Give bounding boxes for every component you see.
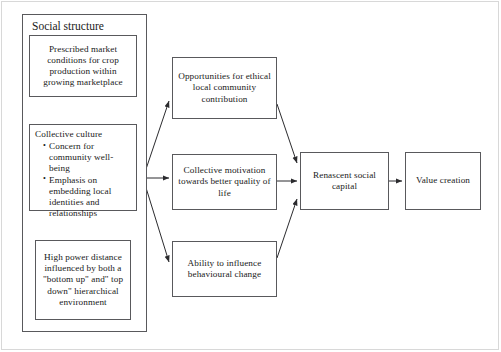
node-prescribed-market-conditions: Prescribed market conditions for crop pr… [29, 35, 137, 97]
diagram-canvas: Social structure Prescribed market condi… [0, 0, 501, 352]
node-opportunities-ethical-contribution: Opportunities for ethical local communit… [172, 57, 277, 119]
list-item: Concern for community well-being [43, 141, 132, 174]
node-value-creation: Value creation [405, 152, 481, 210]
node-high-power-distance: High power distance influenced by both a… [35, 240, 131, 320]
node-renascent-social-capital: Renascent social capital [300, 152, 389, 210]
collective-culture-bullets: Concern for community well-being Emphasi… [35, 141, 132, 219]
node-ability-influence-behavioural-change: Ability to influence behavioural change [172, 241, 277, 297]
connector-opportunities-renascent [277, 104, 297, 163]
social-structure-label: Social structure [32, 20, 104, 32]
list-item: Emphasis on embedding local identities a… [43, 175, 132, 220]
node-collective-culture: Collective culture Concern for community… [29, 124, 137, 211]
node-collective-motivation: Collective motivation towards better qua… [172, 154, 277, 210]
connector-ability-renascent [277, 199, 297, 258]
collective-culture-title: Collective culture [35, 129, 132, 140]
